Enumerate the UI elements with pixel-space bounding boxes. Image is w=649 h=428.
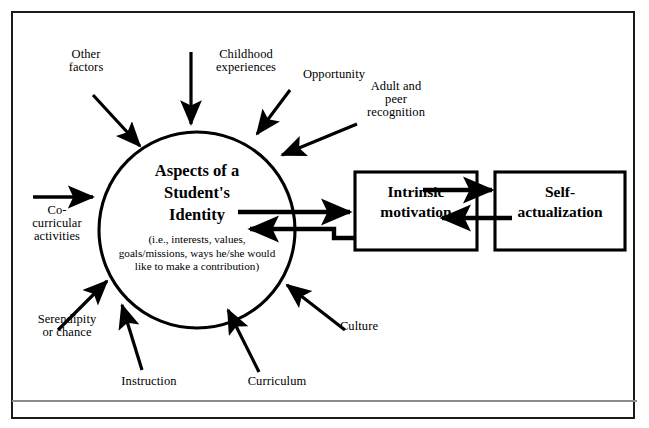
label-adult-and-peer-recognition: Adult and peer recognition [352,80,440,119]
label-childhood-experiences: Childhood experiences [192,48,300,74]
diagram-canvas: Aspects of a Student's Identity (i.e., i… [0,0,649,428]
identity-subtext: (i.e., interests, values, goals/missions… [93,233,301,274]
label-co-curricular-activities: Co- curricular activities [20,204,94,243]
self-actualization-label: Self- actualization [497,182,623,221]
label-other-factors: Other factors [48,48,124,74]
label-culture: Culture [323,320,395,333]
label-serendipity-or-chance: Serendipity or chance [22,313,112,339]
label-curriculum: Curriculum [233,375,321,388]
bottom-divider-rule [12,400,637,402]
label-instruction: Instruction [106,375,192,388]
intrinsic-motivation-label: Intrinsic motivation [357,182,475,221]
identity-heading: Aspects of a Student's Identity [117,160,277,225]
